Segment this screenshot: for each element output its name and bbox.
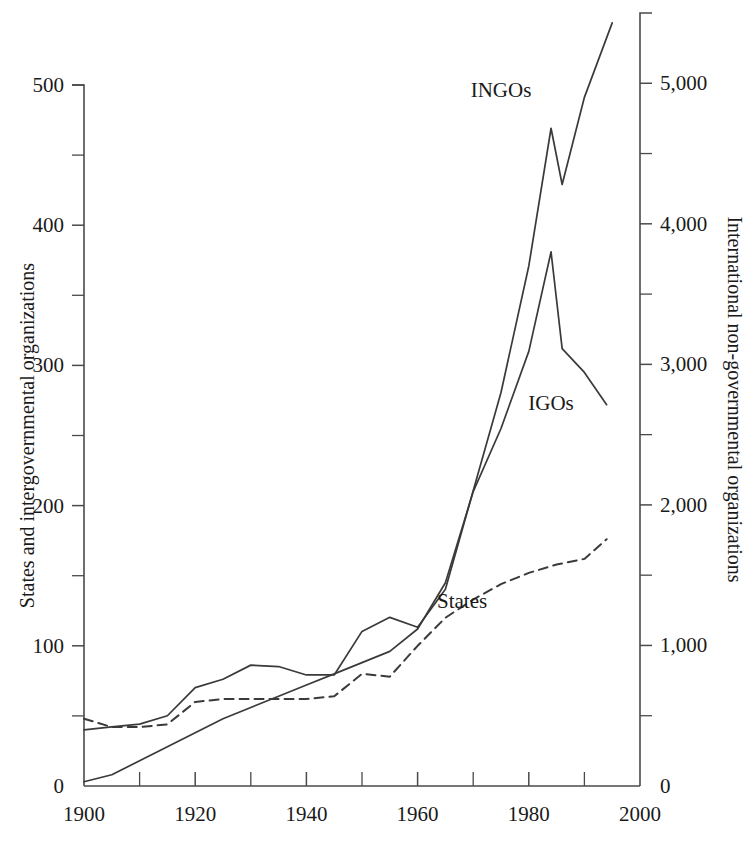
right-axis-title: International non-governmental organizat…: [723, 216, 746, 582]
left-axis-title: States and intergovernmental organizatio…: [16, 263, 39, 609]
series-line-states: [84, 539, 607, 727]
series-line-igos: [84, 252, 607, 782]
right-axis-tick-labels: 01,0002,0003,0004,0005,000: [660, 71, 707, 798]
left-tick-label: 0: [54, 774, 65, 798]
right-tick-label: 4,000: [660, 212, 707, 236]
series-annotations-group: INGOsIGOsStates: [437, 78, 574, 613]
x-axis-tick-labels: 190019201940196019802000: [63, 802, 661, 826]
x-tick-label: 1920: [174, 802, 216, 826]
right-tick-label: 0: [660, 774, 671, 798]
series-line-ingos: [84, 23, 612, 730]
x-tick-label: 1900: [63, 802, 105, 826]
x-axis-ticks: [140, 772, 585, 786]
right-axis-line: [640, 13, 652, 786]
x-tick-label: 1940: [285, 802, 327, 826]
x-tick-label: 2000: [619, 802, 661, 826]
series-label-ingos: INGOs: [471, 78, 532, 102]
right-tick-label: 2,000: [660, 493, 707, 517]
left-axis-ticks: [72, 85, 84, 716]
chart-figure: 0100200300400500 01,0002,0003,0004,0005,…: [0, 0, 756, 843]
right-axis-ticks: [640, 83, 652, 715]
left-tick-label: 100: [33, 634, 65, 658]
x-tick-label: 1980: [508, 802, 550, 826]
left-tick-label: 500: [33, 73, 65, 97]
series-label-states: States: [437, 589, 487, 613]
right-tick-label: 3,000: [660, 352, 707, 376]
right-tick-label: 5,000: [660, 71, 707, 95]
left-tick-label: 400: [33, 213, 65, 237]
x-tick-label: 1960: [397, 802, 439, 826]
chart-canvas: 0100200300400500 01,0002,0003,0004,0005,…: [0, 0, 756, 843]
series-label-igos: IGOs: [528, 391, 574, 415]
right-tick-label: 1,000: [660, 633, 707, 657]
